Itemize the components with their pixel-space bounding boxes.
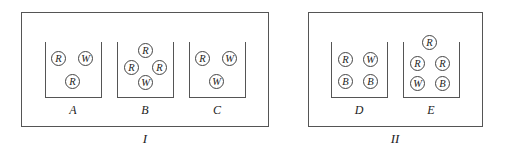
ball-red: R (410, 56, 425, 71)
container-label-c: C (207, 103, 227, 118)
ball-red: R (51, 51, 66, 66)
container-label-d: D (349, 103, 369, 118)
container-label-e: E (421, 103, 441, 118)
ball-white: W (138, 75, 153, 90)
ball-red: R (338, 52, 353, 67)
ball-white: W (410, 76, 425, 91)
ball-white: W (222, 51, 237, 66)
ball-red: R (65, 74, 80, 89)
container-label-a: A (63, 103, 83, 118)
group-label-ii: II (375, 131, 415, 147)
ball-red: R (435, 56, 450, 71)
ball-red: R (195, 51, 210, 66)
ball-red: R (138, 43, 153, 58)
ball-white: W (363, 52, 378, 67)
ball-blue: B (338, 74, 353, 89)
container-d (331, 42, 388, 98)
ball-blue: B (363, 74, 378, 89)
container-a (45, 42, 102, 98)
ball-white: W (78, 51, 93, 66)
container-label-b: B (135, 103, 155, 118)
ball-red: R (422, 35, 437, 50)
ball-white: W (209, 74, 224, 89)
group-label-i: I (125, 131, 165, 147)
container-c (189, 42, 246, 98)
ball-blue: B (435, 76, 450, 91)
ball-red: R (124, 60, 139, 75)
ball-red: R (152, 60, 167, 75)
container-e (403, 42, 460, 98)
